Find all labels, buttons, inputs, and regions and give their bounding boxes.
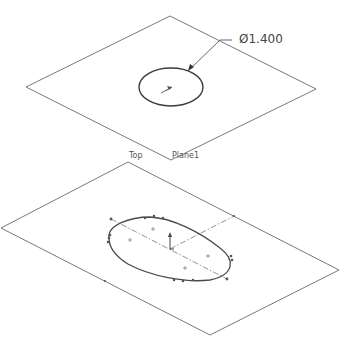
top-plane-group[interactable] <box>1 162 339 335</box>
centerline-endpoint[interactable] <box>226 278 229 281</box>
dimension-leader[interactable] <box>188 40 232 71</box>
top-plane-label[interactable]: Top <box>129 151 143 160</box>
origin-arrow-icon <box>161 86 172 93</box>
centerline-minor <box>170 216 234 249</box>
graphics-area[interactable] <box>0 0 349 344</box>
origin-normal-icon <box>168 232 174 249</box>
centerline-major <box>111 219 227 279</box>
plane1-label[interactable]: Plane1 <box>172 151 199 160</box>
centerline-endpoint[interactable] <box>110 218 113 221</box>
edge-point <box>104 280 106 282</box>
diameter-dimension[interactable]: Ø1.400 <box>239 32 283 46</box>
